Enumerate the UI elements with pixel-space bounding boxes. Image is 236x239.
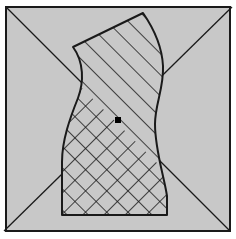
figure-container xyxy=(0,0,236,239)
figure-canvas xyxy=(0,0,236,239)
center-point-marker xyxy=(115,117,121,123)
